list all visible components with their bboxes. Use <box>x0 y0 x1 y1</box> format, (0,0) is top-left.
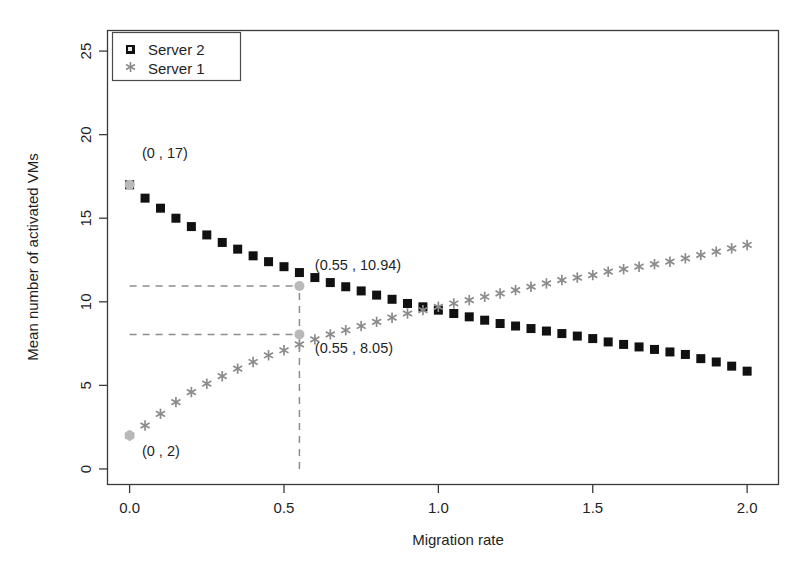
data-point-server-2 <box>449 309 458 318</box>
data-point-server-1 <box>187 387 196 397</box>
data-point-server-2 <box>588 334 597 343</box>
plot-frame <box>108 31 779 485</box>
data-point-server-1 <box>388 312 397 322</box>
data-point-server-2 <box>156 204 165 213</box>
data-point-server-1 <box>465 295 474 305</box>
data-point-server-2 <box>326 278 335 287</box>
data-point-server-1 <box>403 308 412 318</box>
data-point-server-2 <box>743 367 752 376</box>
data-point-server-1 <box>171 397 180 407</box>
data-point-server-1 <box>604 267 613 277</box>
y-tick-label: 25 <box>78 43 95 60</box>
data-point-server-2 <box>171 214 180 223</box>
data-point-server-2 <box>681 350 690 359</box>
legend-square-inner-icon <box>128 47 132 51</box>
annotation-label: (0.55 , 8.05) <box>315 340 393 356</box>
legend-label-server-1: Server 1 <box>148 60 205 77</box>
data-point-server-2 <box>372 291 381 300</box>
data-point-server-2 <box>264 257 273 266</box>
data-point-server-1 <box>743 240 752 250</box>
data-point-server-1 <box>372 317 381 327</box>
data-point-server-1 <box>496 288 505 298</box>
series-server-2-points <box>125 180 752 375</box>
legend[interactable]: Server 2 Server 1 <box>113 33 241 81</box>
data-point-server-2 <box>526 324 535 333</box>
data-point-server-2 <box>650 345 659 354</box>
data-point-server-1 <box>156 409 165 419</box>
data-point-server-2 <box>249 251 258 260</box>
data-point-server-1 <box>635 261 644 271</box>
x-axis-title: Migration rate <box>412 531 504 548</box>
data-point-server-1 <box>233 363 242 373</box>
annotation-markers <box>125 180 305 441</box>
data-point-server-2 <box>712 357 721 366</box>
data-point-server-1 <box>341 325 350 335</box>
data-point-server-2 <box>357 286 366 295</box>
data-point-server-2 <box>187 222 196 231</box>
data-point-server-1 <box>619 264 628 274</box>
data-point-server-2 <box>233 245 242 254</box>
data-point-server-1 <box>542 278 551 288</box>
annotation-dot <box>294 281 304 291</box>
data-point-server-2 <box>496 319 505 328</box>
data-point-server-1 <box>249 357 258 367</box>
data-point-server-1 <box>295 339 304 349</box>
annotation-dot <box>294 329 304 339</box>
data-point-server-1 <box>449 298 458 308</box>
data-point-server-1 <box>712 246 721 256</box>
data-point-server-1 <box>511 285 520 295</box>
data-point-server-2 <box>218 238 227 247</box>
x-tick-label: 2.0 <box>737 499 758 516</box>
data-point-server-2 <box>635 342 644 351</box>
data-point-server-1 <box>326 329 335 339</box>
data-point-server-2 <box>696 354 705 363</box>
data-point-server-1 <box>727 243 736 253</box>
data-point-server-1 <box>588 270 597 280</box>
data-point-server-2 <box>480 316 489 325</box>
data-point-server-2 <box>557 329 566 338</box>
data-point-server-2 <box>310 273 319 282</box>
data-point-server-2 <box>727 362 736 371</box>
x-tick-label: 0.0 <box>119 499 140 516</box>
data-point-server-2 <box>619 340 628 349</box>
data-point-server-2 <box>141 194 150 203</box>
data-point-server-1 <box>681 253 690 263</box>
data-point-server-1 <box>650 259 659 269</box>
data-point-server-2 <box>279 262 288 271</box>
data-point-server-2 <box>542 327 551 336</box>
data-point-server-1 <box>480 292 489 302</box>
data-point-server-1 <box>141 420 150 430</box>
y-tick-label: 15 <box>78 210 95 227</box>
data-point-server-2 <box>403 299 412 308</box>
chart-figure: 0.00.51.01.52.00510152025 (0 , 17)(0 , 2… <box>0 0 804 578</box>
annotation-label: (0 , 17) <box>142 145 188 161</box>
data-point-server-1 <box>526 282 535 292</box>
y-tick-label: 10 <box>78 293 95 310</box>
data-point-server-2 <box>465 312 474 321</box>
annotation-label: (0.55 , 10.94) <box>315 257 401 273</box>
y-tick-label: 0 <box>78 465 95 473</box>
x-tick-label: 0.5 <box>274 499 295 516</box>
annotation-dot <box>125 431 135 441</box>
data-point-server-1 <box>357 321 366 331</box>
data-point-server-1 <box>573 272 582 282</box>
legend-label-server-2: Server 2 <box>148 41 205 58</box>
data-point-server-2 <box>202 230 211 239</box>
x-tick-label: 1.5 <box>582 499 603 516</box>
data-point-server-2 <box>573 332 582 341</box>
annotation-labels: (0 , 17)(0 , 2)(0.55 , 10.94)(0.55 , 8.0… <box>142 145 401 459</box>
data-point-server-1 <box>218 371 227 381</box>
guide-lines <box>130 286 300 469</box>
data-point-server-1 <box>557 275 566 285</box>
series-server-1-points <box>125 240 752 441</box>
data-point-server-1 <box>202 379 211 389</box>
x-tick-label: 1.0 <box>428 499 449 516</box>
axis-ticks <box>99 51 747 493</box>
data-point-server-1 <box>665 256 674 266</box>
data-point-server-2 <box>341 282 350 291</box>
data-point-server-2 <box>604 337 613 346</box>
data-point-server-1 <box>279 345 288 355</box>
data-point-server-1 <box>696 250 705 260</box>
data-point-server-2 <box>295 268 304 277</box>
y-tick-label: 20 <box>78 126 95 143</box>
